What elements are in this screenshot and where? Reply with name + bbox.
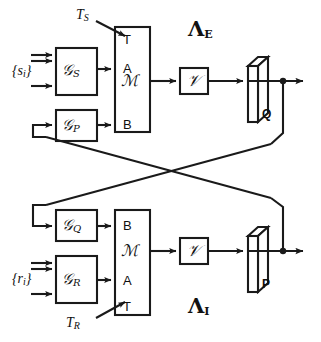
gain-q-label: 𝒢Q bbox=[62, 218, 81, 234]
stack-row-upper-3: B bbox=[123, 118, 132, 131]
block-stack-lower bbox=[115, 210, 150, 315]
slab-label-p: P bbox=[262, 278, 270, 290]
gain-r-label: 𝒢R bbox=[62, 272, 81, 288]
stack-row-lower-2: A bbox=[123, 274, 132, 287]
feedback-lower-diagonal bbox=[46, 137, 271, 198]
stack-row-upper-0: T bbox=[123, 33, 131, 46]
trigger-label-tr: TR bbox=[66, 316, 80, 331]
diagram-vector-layer bbox=[0, 0, 321, 342]
gain-s-label: 𝒢S bbox=[62, 63, 80, 79]
stack-row-upper-2: ℳ bbox=[121, 73, 138, 89]
feedback-upper-diagonal bbox=[46, 144, 271, 205]
feedback-upper-drop bbox=[271, 81, 283, 144]
branch-title-upper: ΛE bbox=[188, 18, 213, 40]
stack-row-lower-0: B bbox=[123, 219, 132, 232]
branch-title-lower: ΛI bbox=[188, 295, 209, 317]
diagram-canvas: {si} TS 𝒢S 𝒢P T A ℳ B 𝒱 Q ΛE {ri} TR 𝒢Q … bbox=[0, 0, 321, 342]
stack-row-lower-3: T bbox=[123, 300, 131, 313]
feedback-upper-to-gq bbox=[33, 205, 52, 226]
feedback-lower-to-gp bbox=[33, 125, 52, 137]
gain-p-label: 𝒢P bbox=[62, 118, 80, 134]
v-label-lower: 𝒱 bbox=[187, 243, 200, 259]
slab-label-q: Q bbox=[262, 108, 271, 120]
input-label-r: {ri} bbox=[12, 272, 31, 287]
input-label-s: {si} bbox=[12, 64, 31, 79]
feedback-lower-rise bbox=[271, 198, 283, 251]
trigger-label-ts: TS bbox=[76, 8, 89, 23]
stack-row-lower-1: ℳ bbox=[121, 243, 138, 259]
v-label-upper: 𝒱 bbox=[187, 73, 200, 89]
